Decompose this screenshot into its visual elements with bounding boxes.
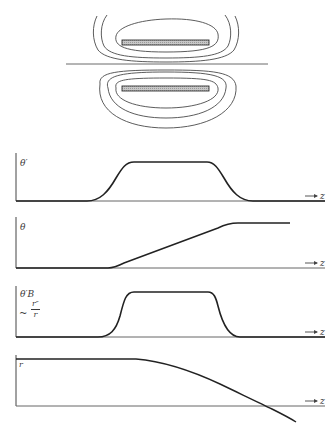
ylabel-theta-prime-B: θ′B [20,290,34,299]
panel-theta-prime-B [16,286,325,337]
ylabel-fraction: r″ r [31,300,40,319]
z-arrowhead-icon [314,330,318,334]
figure: θ′ z θ z θ′B ~ r″ r z r z [0,0,335,431]
z-arrowhead-icon [314,194,318,198]
theta-curve [16,223,290,268]
fraction-denominator: r [31,310,40,319]
xlabel-z: z [320,192,325,201]
lens-diagram [66,15,268,128]
figure-canvas [0,0,335,431]
xlabel-z: z [320,328,325,337]
panel-r [16,355,325,422]
theta-prime-B-curve [16,292,325,337]
theta-prime-curve [16,162,325,201]
ylabel-approx-sign: ~ [19,308,27,318]
panel-theta [16,217,325,268]
lower-field-lines [100,70,236,128]
upper-field-lines [93,15,238,62]
ylabel-r: r [19,361,23,369]
panel-theta-prime [16,153,325,201]
xlabel-z: z [320,397,325,406]
r-curve [16,359,296,422]
fraction-numerator: r″ [31,300,40,310]
lower-pole-bar [122,86,209,91]
xlabel-z: z [320,259,325,268]
upper-pole-bar [122,40,209,45]
z-arrowhead-icon [314,261,318,265]
z-arrowhead-icon [314,399,318,403]
ylabel-theta: θ [20,223,25,232]
ylabel-theta-prime: θ′ [20,159,27,168]
